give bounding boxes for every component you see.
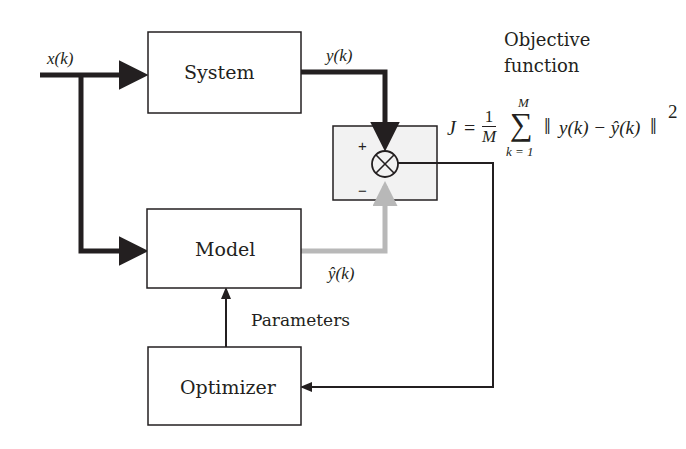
norm-open: ‖ [544,114,551,138]
minus-sign: − [358,183,367,198]
objective-title-line2: function [504,57,579,75]
system-output-label: y(k) [326,47,352,64]
norm-close: ‖ [650,114,657,138]
input-signal-label: x(k) [47,50,73,67]
formula-equals: = [464,118,475,138]
optimizer-label: Optimizer [180,378,276,397]
model-output-label: ŷ(k) [328,265,354,282]
sum-symbol: ∑ [510,108,533,140]
objective-title-line1: Objective [504,31,590,49]
formula-exponent: 2 [668,102,678,121]
model-label: Model [195,240,255,259]
parameters-label: Parameters [251,312,350,329]
fraction-numerator: 1 [482,108,496,127]
sum-lower-limit: k = 1 [506,145,534,158]
formula-lhs: J [447,117,456,139]
formula-fraction: 1 M [482,108,496,145]
fraction-denominator: M [482,127,496,145]
formula-term: y(k) − ŷ(k) [559,118,640,137]
summing-junction-icon [372,151,398,177]
plus-sign: + [358,138,367,153]
diagram-canvas [0,0,686,449]
system-label: System [184,63,254,82]
input-to-model-line [81,75,141,251]
